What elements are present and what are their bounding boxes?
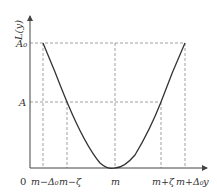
origin-label: 0 xyxy=(20,176,26,187)
m-minus-zeta-label: m−ζ xyxy=(59,176,82,187)
x-axis-label: y xyxy=(202,176,209,187)
guide-lines xyxy=(30,43,185,168)
diagram-canvas: L(y) A₀ A 0 m−Δ₀ m−ζ m m+ζ m+Δ₀ y xyxy=(0,0,217,193)
a0-label: A₀ xyxy=(15,38,27,49)
m-label: m xyxy=(111,176,120,187)
m-plus-delta0-label: m+Δ₀ xyxy=(176,176,204,187)
a-label: A xyxy=(18,97,26,108)
m-plus-zeta-label: m+ζ xyxy=(152,176,175,187)
m-minus-delta0-label: m−Δ₀ xyxy=(31,176,59,187)
membership-curve xyxy=(43,43,185,168)
